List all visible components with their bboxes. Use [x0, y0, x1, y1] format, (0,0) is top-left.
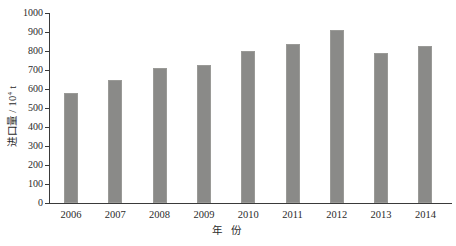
y-tick-label: 700: [1, 65, 43, 75]
bar-chart: 进口量 / 104 t 1000900800700600500400300200…: [0, 0, 456, 246]
x-tick-label: 2006: [47, 209, 95, 220]
y-tick-label: 0: [1, 198, 43, 208]
y-tick-label: 200: [1, 160, 43, 170]
x-tick-label: 2011: [269, 209, 317, 220]
bar: [418, 46, 432, 203]
x-axis-line: [49, 203, 452, 204]
x-tick-label: 2013: [357, 209, 405, 220]
y-tick-label: 400: [1, 122, 43, 132]
x-tick-label: 2008: [136, 209, 184, 220]
bar: [153, 68, 167, 203]
y-tick-label: 800: [1, 46, 43, 56]
y-tick-label: 500: [1, 103, 43, 113]
bar: [374, 53, 388, 203]
y-tick-mark: [45, 203, 50, 204]
x-tick-label: 2014: [401, 209, 449, 220]
x-tick-label: 2012: [313, 209, 361, 220]
x-tick-label: 2009: [180, 209, 228, 220]
bar: [286, 44, 300, 203]
bar: [108, 80, 122, 203]
y-tick-label: 600: [1, 84, 43, 94]
x-axis-title: 年 份: [0, 222, 456, 237]
bar: [330, 30, 344, 203]
y-tick-label: 100: [1, 179, 43, 189]
bar: [241, 51, 255, 203]
bar: [197, 65, 211, 203]
plot-area: 10009008007006005004003002001000 2006200…: [49, 13, 452, 203]
y-tick-label: 1000: [1, 8, 43, 18]
bar-group: [49, 13, 452, 203]
y-tick-label: 300: [1, 141, 43, 151]
x-tick-label: 2010: [224, 209, 272, 220]
y-tick-label: 900: [1, 27, 43, 37]
bar: [64, 93, 78, 203]
x-tick-label: 2007: [91, 209, 139, 220]
